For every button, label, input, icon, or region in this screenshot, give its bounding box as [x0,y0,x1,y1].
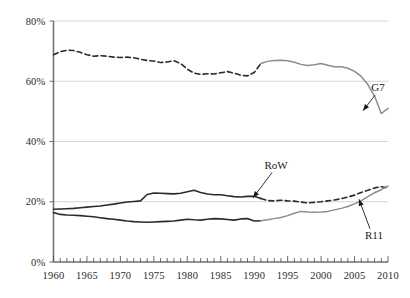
series-line-g7-post [261,60,388,113]
y-tick-label: 0% [31,257,45,268]
series-line-r11-pre [54,213,261,223]
series-line-r11-post [261,186,388,221]
x-tick-label: 1990 [243,270,265,281]
chart-container: 0%20%40%60%80% 1960196519701975198019851… [0,0,410,298]
series-label-row: RoW [264,159,288,171]
y-axis-group [50,21,54,262]
y-tick-label: 20% [26,196,46,207]
y-tick-label: 40% [26,136,46,147]
line-chart: 0%20%40%60%80% 1960196519701975198019851… [0,0,410,298]
x-tick-label: 1985 [210,270,232,281]
x-tick-label: 1995 [277,270,299,281]
x-tick-label: 2005 [344,270,366,281]
x-axis-group [54,256,389,262]
x-tick-label: 1975 [143,270,165,281]
x-tick-label: 1965 [76,270,98,281]
g7-annotation-arrowhead [363,104,369,111]
y-tick-labels-group: 0%20%40%60%80% [26,16,46,268]
x-tick-label: 1980 [176,270,198,281]
series-group [54,50,389,222]
x-tick-label: 1960 [43,270,65,281]
series-line-row-post [261,187,388,203]
series-line-row-pre [54,190,261,209]
y-tick-label: 60% [26,76,46,87]
x-tick-labels-group: 1960196519701975198019851990199520002005… [43,270,399,281]
y-tick-label: 80% [26,16,46,27]
annotations-group: G7RoWR11 [253,81,385,241]
series-label-r11: R11 [365,229,383,241]
x-tick-label: 2010 [377,270,399,281]
series-line-g7-pre [54,50,261,76]
series-label-g7: G7 [371,81,385,93]
x-tick-label: 2000 [310,270,332,281]
x-tick-label: 1970 [109,270,131,281]
gridlines-group [54,21,389,202]
